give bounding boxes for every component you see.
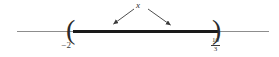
fraction-numerator: 10 <box>211 37 220 44</box>
fraction: 10 3 <box>211 37 220 54</box>
right-endpoint-label: 10 3 <box>211 37 220 54</box>
left-endpoint-label: −2 <box>61 40 72 50</box>
interval-segment <box>73 30 219 33</box>
arrow-right <box>148 9 171 25</box>
variable-label: x <box>136 0 140 10</box>
arrow-left <box>114 9 135 24</box>
fraction-denominator: 3 <box>211 46 220 53</box>
number-line-figure: ( ) −2 10 3 x <box>0 0 279 57</box>
